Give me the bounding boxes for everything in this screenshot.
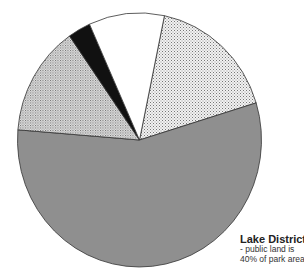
chart-caption: Lake District - public land is 40% of pa… xyxy=(240,233,304,264)
pie-slices xyxy=(17,13,261,267)
caption-line-2: 40% of park area xyxy=(240,255,304,265)
